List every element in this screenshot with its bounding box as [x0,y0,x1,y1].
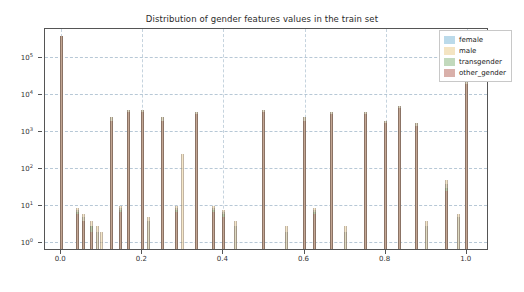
bar [398,108,401,249]
x-axis: 0.00.20.40.60.81.0 [44,251,488,269]
bar [90,232,93,249]
bar [76,214,79,249]
bar [222,217,225,249]
bar [147,217,150,249]
y-tick-label: 100 [21,237,33,247]
y-tick-mark [38,242,42,243]
legend-swatch-icon [444,36,455,44]
x-tick-label: 0.8 [379,255,390,263]
legend-swatch-icon [444,47,455,55]
y-tick-label: 102 [21,163,33,173]
x-tick-mark [385,250,386,254]
bar [161,121,164,249]
bar [234,221,237,249]
y-tick-mark [38,131,42,132]
bar [181,154,184,249]
x-tick-mark [222,250,223,254]
chart-title: Distribution of gender features values i… [0,14,524,24]
bar [110,121,113,249]
bar [119,212,122,249]
x-tick-mark [60,250,61,254]
bar [195,114,198,249]
bar [313,214,316,249]
chart-figure: Distribution of gender features values i… [0,0,524,292]
bar [212,212,215,249]
y-axis: 100101102103104105 [0,28,41,250]
legend-label: female [459,36,483,44]
y-gridline [45,94,487,95]
x-tick-label: 0.0 [55,255,66,263]
y-tick-mark [38,94,42,95]
bar [384,123,387,249]
y-tick-label: 103 [21,126,33,136]
legend-swatch-icon [444,69,455,77]
legend-item[interactable]: other_gender [444,67,506,78]
y-gridline [45,57,487,58]
legend-item[interactable]: transgender [444,56,506,67]
bar [465,84,468,249]
bar [303,121,306,249]
bar [415,126,418,250]
legend-swatch-icon [444,58,455,66]
x-tick-label: 0.6 [298,255,309,263]
y-tick-label: 101 [21,200,33,210]
plot-area [44,28,488,250]
bar [141,112,144,249]
bar [175,212,178,249]
x-tick-mark [304,250,305,254]
y-tick-label: 105 [21,52,33,62]
chart-legend: femalemaletransgenderother_gender [439,30,512,82]
bar [425,221,428,249]
x-tick-label: 1.0 [460,255,471,263]
legend-label: other_gender [459,69,506,77]
legend-label: male [459,47,476,55]
bar [82,221,85,249]
y-tick-mark [38,57,42,58]
bar [330,114,333,249]
legend-label: transgender [459,58,502,66]
x-tick-mark [466,250,467,254]
bar [344,226,347,249]
bar [100,232,103,249]
bar [445,191,448,249]
bar [262,112,265,249]
y-tick-label: 104 [21,89,33,99]
legend-item[interactable]: male [444,45,506,56]
y-tick-mark [38,168,42,169]
x-tick-label: 0.4 [217,255,228,263]
bar [364,114,367,249]
bar [127,112,130,249]
x-tick-label: 0.2 [136,255,147,263]
y-tick-mark [38,205,42,206]
bar [60,36,63,249]
legend-item[interactable]: female [444,34,506,45]
x-tick-mark [141,250,142,254]
bar [285,226,288,249]
bar [457,214,460,249]
bar [96,226,99,249]
